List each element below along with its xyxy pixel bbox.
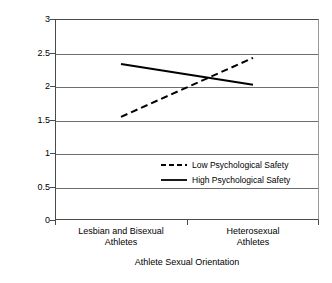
x-tickmark xyxy=(318,220,319,225)
legend-label: Low Psychological Safety xyxy=(192,160,288,170)
x-category-label-line: Athletes xyxy=(187,237,319,248)
gridline xyxy=(56,54,318,55)
gridline xyxy=(56,87,318,88)
x-category-label-line: Lesbian and Bisexual xyxy=(55,226,187,237)
legend-item-low-psychological-safety: Low Psychological Safety xyxy=(161,157,317,172)
y-tick-label: 1 xyxy=(28,148,50,158)
y-tick-label: 2 xyxy=(28,81,50,91)
y-tick-label: 0.5 xyxy=(28,182,50,192)
plot-area xyxy=(55,19,319,220)
dashed-line-icon xyxy=(161,160,187,170)
y-tick-label: 1.5 xyxy=(28,115,50,125)
line-chart: Sexual Orientation Personal Identity 3 2… xyxy=(0,0,332,283)
y-tick-label: 0 xyxy=(28,215,50,225)
legend-label: High Psychological Safety xyxy=(192,175,290,185)
legend: Low Psychological Safety High Psychologi… xyxy=(157,156,317,188)
x-tickmark xyxy=(55,220,56,225)
x-category-label-lesbian-and-bisexual-athletes: Lesbian and Bisexual Athletes xyxy=(55,226,187,248)
y-tick-label: 2.5 xyxy=(28,48,50,58)
solid-line-icon xyxy=(161,175,187,185)
y-axis-tick-labels: 3 2.5 2 1.5 1 0.5 0 xyxy=(28,0,50,283)
gridline xyxy=(56,121,318,122)
x-axis-title: Athlete Sexual Orientation xyxy=(55,257,319,267)
gridline xyxy=(56,154,318,155)
x-category-label-line: Athletes xyxy=(55,237,187,248)
legend-item-high-psychological-safety: High Psychological Safety xyxy=(161,172,317,187)
x-tickmark xyxy=(187,220,188,225)
x-category-label-line: Heterosexual xyxy=(187,226,319,237)
y-tick-label: 3 xyxy=(28,14,50,24)
x-category-label-heterosexual-athletes: Heterosexual Athletes xyxy=(187,226,319,248)
